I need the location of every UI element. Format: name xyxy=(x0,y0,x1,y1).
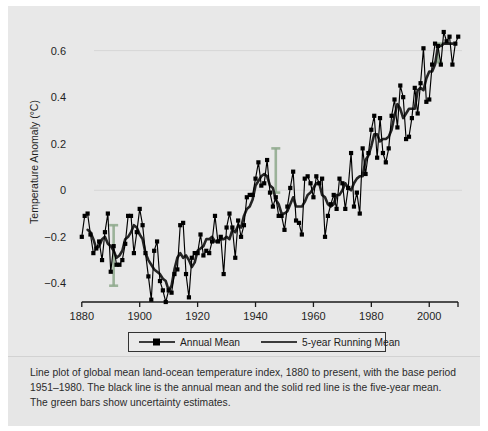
legend-entry-running-mean: 5-year Running Mean xyxy=(261,333,400,351)
chart-legend: Annual Mean 5-year Running Mean xyxy=(128,332,386,352)
figure-container: Temperature Anomaly (°C) −0.4−0.200.20.4… xyxy=(8,6,480,425)
legend-label-annual-mean: Annual Mean xyxy=(180,337,240,348)
legend-entry-annual-mean: Annual Mean xyxy=(139,333,240,351)
series-5-year-running-mean xyxy=(88,44,453,291)
figure-caption: Line plot of global mean land-ocean temp… xyxy=(30,365,460,411)
uncertainty-bars-layer xyxy=(109,44,442,286)
legend-swatch-running-mean xyxy=(261,336,297,348)
chart-canvas xyxy=(8,6,480,356)
legend-swatch-annual-mean xyxy=(139,336,175,348)
legend-label-running-mean: 5-year Running Mean xyxy=(302,337,400,348)
chart-plot-panel: Temperature Anomaly (°C) −0.4−0.200.20.4… xyxy=(8,6,480,356)
figure-caption-panel: Line plot of global mean land-ocean temp… xyxy=(8,356,480,426)
axes-layer xyxy=(82,51,462,307)
series-annual-mean xyxy=(80,30,461,304)
